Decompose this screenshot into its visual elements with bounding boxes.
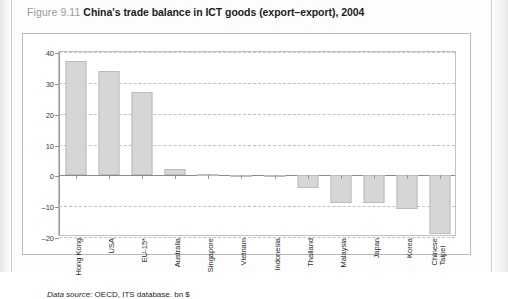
x-axis-tick-mark bbox=[142, 175, 143, 179]
bar[interactable] bbox=[330, 175, 351, 203]
x-axis-category-label: Vietnam bbox=[240, 238, 248, 265]
figure-caption: Figure 9.11 China's trade balance in ICT… bbox=[27, 5, 467, 19]
x-axis-tick-mark bbox=[407, 175, 408, 179]
x-axis-tick-mark bbox=[208, 175, 209, 179]
bar-slot bbox=[125, 52, 158, 235]
x-axis-tick-mark bbox=[341, 175, 342, 179]
bar-slot bbox=[258, 52, 291, 235]
x-axis-tick-mark bbox=[440, 175, 441, 179]
bar[interactable] bbox=[397, 175, 418, 209]
x-axis-category-label: Hong Kong bbox=[75, 238, 83, 276]
x-axis-tick-mark bbox=[308, 175, 309, 179]
bar-slot bbox=[358, 52, 391, 235]
page-left-margin-rule bbox=[11, 0, 12, 272]
y-axis-tick-label: –20 bbox=[41, 234, 54, 243]
figure-frame: 403020100–10–20 Hong KongUSAEU-15*Austra… bbox=[22, 33, 471, 255]
x-axis-category-label: Japan bbox=[373, 238, 381, 258]
y-axis-tick-label: 0 bbox=[50, 172, 54, 181]
bar-slot bbox=[192, 52, 225, 235]
x-axis-tick-mark bbox=[109, 175, 110, 179]
x-axis-category-labels: Hong KongUSAEU-15*AustraliaSingaporeViet… bbox=[58, 236, 456, 238]
y-axis-tick-label: 40 bbox=[46, 49, 54, 58]
x-axis-category-label: Thailand bbox=[307, 238, 315, 267]
source-text: OECD, ITS database. bn $ bbox=[95, 290, 190, 299]
y-axis-tick-label: 30 bbox=[46, 79, 54, 88]
bar-slot bbox=[92, 52, 125, 235]
chart-plot-box: 403020100–10–20 bbox=[58, 51, 456, 236]
x-axis-category-label: Malaysia bbox=[340, 238, 348, 268]
x-axis-category-label: Indonesia bbox=[274, 238, 282, 271]
bar[interactable] bbox=[65, 61, 86, 175]
bar-slot bbox=[324, 52, 357, 235]
x-axis-tick-mark bbox=[76, 175, 77, 179]
x-axis-category-label: Korea bbox=[406, 238, 414, 258]
x-axis-tick-mark bbox=[175, 175, 176, 179]
bar-slot bbox=[159, 52, 192, 235]
bar-slot bbox=[391, 52, 424, 235]
bars-layer bbox=[59, 52, 455, 235]
figure-number: Figure 9.11 bbox=[27, 6, 80, 18]
bar-slot bbox=[424, 52, 457, 235]
y-axis-tick-label: 20 bbox=[46, 110, 54, 119]
page-right-margin-rule bbox=[491, 0, 492, 272]
page-left-edge bbox=[0, 0, 11, 272]
bar-slot bbox=[291, 52, 324, 235]
page-right-edge bbox=[492, 0, 508, 272]
y-axis-tick-label: –10 bbox=[41, 203, 54, 212]
bar-slot bbox=[59, 52, 92, 235]
chart-plot-area: 403020100–10–20 bbox=[59, 52, 455, 235]
source-label: Data source: bbox=[47, 290, 92, 299]
source-note: Data source: OECD, ITS database. bn $ bbox=[47, 290, 190, 299]
bar[interactable] bbox=[131, 92, 152, 175]
figure-title: China's trade balance in ICT goods (expo… bbox=[83, 6, 364, 18]
bar-slot bbox=[225, 52, 258, 235]
x-axis-category-label: Chinese Taipei bbox=[431, 238, 447, 266]
bar[interactable] bbox=[430, 175, 451, 234]
bar[interactable] bbox=[364, 175, 385, 203]
x-axis-category-label: Australia bbox=[174, 238, 182, 267]
x-axis-category-label: EU-15* bbox=[141, 238, 149, 262]
x-axis-tick-mark bbox=[275, 175, 276, 179]
y-axis-tick-mark bbox=[55, 238, 59, 239]
x-axis-tick-mark bbox=[374, 175, 375, 179]
y-axis-tick-label: 10 bbox=[46, 141, 54, 150]
bar[interactable] bbox=[98, 71, 119, 176]
x-axis-category-label: Singapore bbox=[207, 238, 215, 272]
x-axis-category-label: USA bbox=[108, 238, 116, 253]
x-axis-tick-mark bbox=[241, 175, 242, 179]
